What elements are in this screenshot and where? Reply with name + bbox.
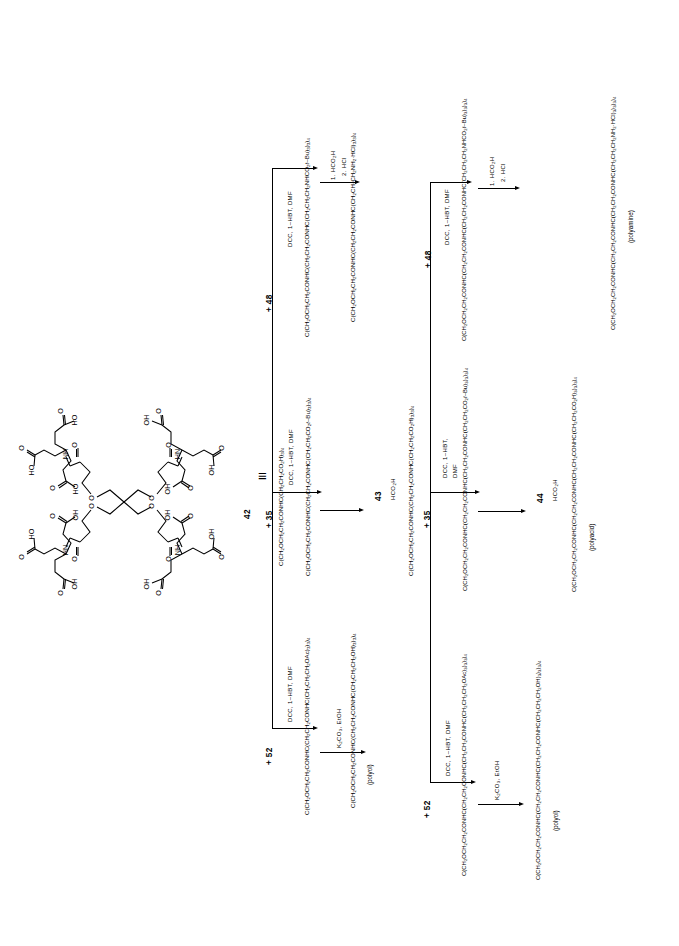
svg-text:O: O xyxy=(48,513,57,519)
arrowhead-gen3-tbu-to-gen3-acid xyxy=(521,509,526,513)
arrowhead-acetate-to-alcohol xyxy=(361,750,366,754)
arrow-gen2-tbu-to-gen2-acid xyxy=(320,510,360,511)
reagent-dcc-hbt-dmf-bottom: DCC, 1–HBT, DMF xyxy=(287,666,293,722)
identity-equivalence-icon: ≡ xyxy=(258,468,267,483)
svg-text:OH: OH xyxy=(142,579,151,590)
svg-text:O: O xyxy=(70,556,79,562)
branch-trunk-line xyxy=(272,168,273,728)
svg-text:HO: HO xyxy=(27,528,36,539)
arrow-gen3-tbu-to-gen3-acid xyxy=(478,511,522,512)
svg-text:O: O xyxy=(186,513,195,519)
arrowhead-gen1-to-boc-amine xyxy=(313,166,318,170)
reagent-dcc-hbt-line2: DMF xyxy=(452,464,458,478)
reaction-scheme-page: O O O O O NH O HO O HO O HO O HN O OH O … xyxy=(0,0,679,946)
svg-text:OH: OH xyxy=(142,415,151,426)
arrowhead-gen3-boc-to-amine-hcl xyxy=(515,186,520,190)
arrowhead-gen2-tbu-to-gen2-acid xyxy=(359,508,364,512)
reagent-plus-48-second: + 48 xyxy=(425,250,433,268)
svg-text:O: O xyxy=(87,503,96,509)
compound-label-44: 44 xyxy=(537,493,545,503)
reagent-dcc-hbt-line1: DCC, 1–HBT, xyxy=(442,438,448,478)
svg-text:O: O xyxy=(164,556,173,562)
reagent-step2-hcl-2: 2. HCl xyxy=(500,163,506,182)
svg-text:O: O xyxy=(70,442,79,448)
svg-text:O: O xyxy=(217,445,226,451)
formula-gen2-acid: C(CH2OCH2CH2CONHC(CH2CH2CONHC(CH2CH2CO2H… xyxy=(408,406,415,576)
reagent-plus-35-first: + 35 xyxy=(266,510,274,528)
svg-text:O: O xyxy=(56,590,65,596)
svg-text:O: O xyxy=(154,408,163,414)
dendrimer-structure-drawing: O O O O O NH O HO O HO O HO O HN O OH O … xyxy=(14,378,234,626)
arrowhead-gen2-to-gen3-tbu xyxy=(475,490,480,494)
formula-gen1-acid: C(CH2OCH2CH2CONHC(CH2CH2CO2H)3)4 xyxy=(278,448,285,566)
formula-gen3-alcohol: C(CH2OCH2CH2CONHC(CH2CH2CONHC(CH2CH2CONH… xyxy=(536,661,542,880)
svg-text:HO: HO xyxy=(27,464,36,475)
formula-gen2-boc-amine: C(CH2OCH2CH2CONHC(CH2CH2CONHC(CH2CH2CH2N… xyxy=(304,138,311,337)
svg-text:O: O xyxy=(17,445,26,451)
svg-text:O: O xyxy=(154,590,163,596)
formula-gen3-acid: C(CH2OCH2CH2CONHC(CH2CH2CONHC(CH2CH2CONH… xyxy=(572,377,578,592)
label-polyamine: (polyamine) xyxy=(628,210,634,243)
reagent-dcc-hbt-dmf-second: DCC, 1–HBT, DMF xyxy=(444,189,450,245)
label-polyacid: (polyacid) xyxy=(589,524,595,551)
svg-text:OH: OH xyxy=(71,510,80,521)
formula-gen3-amine-hcl: C(CH2OCH2CH2CONHC(CH2CH2CONHC(CH2CH2CONH… xyxy=(611,97,617,330)
svg-text:OH: OH xyxy=(70,579,79,590)
branch-trunk-line-gen2-amine xyxy=(430,182,431,532)
reagent-k2co3-etoh-2: K2CO3, EtOH xyxy=(494,760,501,800)
formula-gen3-tbu-ester: C(CH2OCH2CH2CONHC(CH2CH2CONHC(CH2CH2CONH… xyxy=(463,368,469,591)
formula-gen2-alcohol: C(CH2OCH2CH2CONHC(CH2CH2CONHC(CH2CH2CH2O… xyxy=(350,633,357,808)
reagent-step1-hco2h-2: 1. HCO2H xyxy=(489,156,496,186)
reagent-hco2h-2: HCO2H xyxy=(552,479,559,501)
svg-text:O: O xyxy=(17,554,26,560)
svg-text:HO: HO xyxy=(70,414,79,425)
svg-text:HO: HO xyxy=(71,483,80,494)
formula-gen2-tbu-ester: C(CH2OCH2CH2CONHC(CH2CH2CONHC(CH2CH2CO2t… xyxy=(305,397,312,576)
svg-text:O: O xyxy=(186,485,195,491)
reagent-plus-48-top: + 48 xyxy=(266,294,274,312)
formula-gen2-acetate: C(CH2OCH2CH2CONHC(CH2CH2CONHC(CH2CH2CH2O… xyxy=(304,637,311,815)
formula-gen3-acetate: C(CH2OCH2CH2CONHC(CH2CH2CONHC(CH2CH2CONH… xyxy=(462,654,468,876)
arrowhead-gen3-acetate-to-alcohol xyxy=(519,802,524,806)
compound-label-42: 42 xyxy=(244,509,252,519)
arrow-gen3-acetate-to-alcohol xyxy=(478,804,520,805)
reagent-step1-hco2h: 1. HCO2H xyxy=(330,150,337,180)
svg-text:O: O xyxy=(217,554,226,560)
branch-trunk-line-gen2-acid xyxy=(430,492,431,782)
reagent-k2co3-etoh-1: K2CO3, EtOH xyxy=(336,708,343,748)
svg-text:OH: OH xyxy=(163,510,172,521)
svg-text:HN: HN xyxy=(61,545,70,555)
label-polyol-gen2: (polyol) xyxy=(367,764,373,785)
reagent-dcc-hbt-dmf-bottom2: DCC, 1–HBT, DMF xyxy=(445,720,451,776)
svg-text:HN: HN xyxy=(173,449,182,459)
reagent-plus-52-top: + 52 xyxy=(266,747,274,765)
compound-label-43: 43 xyxy=(375,491,383,501)
reagent-dcc-hbt-dmf-top: DCC, 1–HBT, DMF xyxy=(287,191,293,247)
formula-gen3-boc-amine: C(CH2OCH2CH2CONHC(CH2CH2CONHC(CH2CH2CONH… xyxy=(462,98,468,341)
svg-text:O: O xyxy=(56,408,65,414)
reagent-plus-35-second: + 35 xyxy=(424,510,432,528)
svg-text:O: O xyxy=(147,503,156,509)
svg-text:OH: OH xyxy=(207,529,216,540)
reagent-step2-hcl: 2. HCl xyxy=(341,157,347,176)
svg-text:O: O xyxy=(147,495,156,501)
reagent-dcc-hbt-dmf-mid: DCC, 1–HBT, DMF xyxy=(288,429,294,485)
reagent-hco2h-1: HCO2H xyxy=(390,478,397,500)
arrowhead-gen2-to-gen3-acetate xyxy=(471,780,476,784)
svg-text:NH: NH xyxy=(61,449,70,459)
formula-gen2-amine-hcl: C(CH2OCH2CH2CONHC(CH2CH2CONHC(CH2CH2CH2N… xyxy=(350,133,357,322)
svg-text:O: O xyxy=(48,485,57,491)
reagent-plus-52-second: + 52 xyxy=(424,800,432,818)
svg-text:NH: NH xyxy=(173,545,182,555)
arrowhead-gen1-to-gen2-tbu xyxy=(317,490,322,494)
arrowhead-gen1-to-acetate xyxy=(313,726,318,730)
svg-text:O: O xyxy=(87,495,96,501)
svg-text:O: O xyxy=(164,442,173,448)
label-polyol-gen3: (polyol) xyxy=(553,810,559,831)
arrow-gen3-boc-to-amine-hcl xyxy=(478,188,516,189)
svg-text:OH: OH xyxy=(163,484,172,495)
svg-text:OH: OH xyxy=(207,465,216,476)
